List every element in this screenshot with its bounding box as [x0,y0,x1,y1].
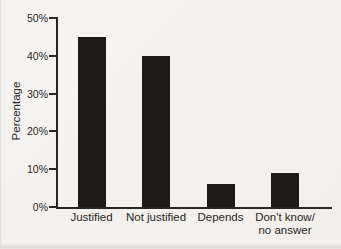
bar-don-t-know- [271,173,299,207]
y-tick-label: 40% [10,50,48,62]
y-tick-label: 50% [10,12,48,24]
y-tick-label: 30% [10,88,48,100]
bar-justified [78,37,106,207]
x-category-label: Don't know/ no answer [240,211,330,237]
y-tick-mark [49,206,56,208]
y-tick-mark [49,17,56,19]
bar-not-justified [142,56,170,207]
y-tick-mark [49,55,56,57]
y-tick-label: 10% [10,163,48,175]
y-tick-mark [49,168,56,170]
bar-depends [207,184,235,207]
x-axis-line [56,207,332,209]
bar-chart-figure: Percentage 0%10%20%30%40%50% JustifiedNo… [0,0,341,249]
y-tick-label: 20% [10,125,48,137]
y-tick-mark [49,130,56,132]
y-tick-mark [49,93,56,95]
y-tick-label: 0% [10,201,48,213]
y-axis-line [56,17,58,207]
